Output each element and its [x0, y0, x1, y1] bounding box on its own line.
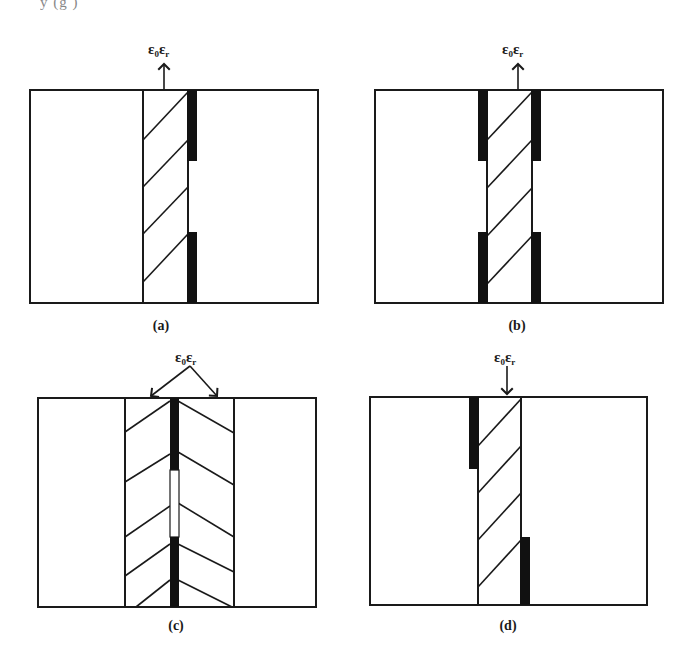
arrow-left-down-icon — [151, 366, 190, 396]
hatching — [143, 92, 188, 282]
center-gap — [170, 470, 179, 537]
permittivity-label-c: ε0εr — [175, 349, 196, 367]
caption-c: (c) — [168, 618, 184, 634]
electrode-right-top — [531, 90, 541, 161]
electrode-top — [187, 90, 197, 161]
caption-d: (d) — [499, 618, 516, 634]
caption-a: (a) — [153, 318, 170, 334]
electrode-right-bottom — [531, 232, 541, 303]
hatching — [487, 92, 532, 284]
center-electrode-top — [170, 398, 179, 471]
outer-box — [370, 397, 647, 605]
permittivity-label-d: ε0εr — [494, 349, 515, 367]
panel-a — [30, 64, 318, 303]
figure-diagram: ε0εr (a) ε0εr (b) — [0, 0, 690, 654]
chevron-hatching-right — [178, 401, 234, 607]
outer-box — [375, 90, 663, 303]
electrode-right-bottom — [520, 537, 530, 605]
panel-c — [38, 366, 316, 607]
electrode-left-top — [469, 397, 479, 469]
electrode-left-bottom — [478, 232, 488, 303]
arrow-right-down-icon — [190, 366, 217, 396]
permittivity-label-a: ε0εr — [148, 41, 169, 59]
center-electrode-bottom — [170, 537, 179, 607]
hatching — [478, 399, 521, 587]
outer-box — [30, 90, 318, 303]
chevron-hatching-left — [125, 401, 170, 607]
caption-b: (b) — [508, 318, 525, 334]
electrode-left-top — [478, 90, 488, 161]
permittivity-label-b: ε0εr — [502, 41, 523, 59]
panel-d — [370, 366, 647, 605]
panel-b — [375, 64, 663, 303]
electrode-bottom — [187, 232, 197, 303]
